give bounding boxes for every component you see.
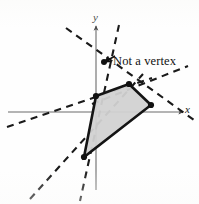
y-axis-label: y <box>93 12 98 23</box>
vertex-dot-top <box>126 81 132 87</box>
figure-canvas <box>0 0 199 204</box>
vertex-dot-right <box>148 102 154 108</box>
vertex-dot-bottom <box>81 154 87 160</box>
x-axis-label: x <box>185 104 190 115</box>
geometry-figure: y x Not a vertex <box>0 0 199 204</box>
not-a-vertex-label: Not a vertex <box>113 54 176 69</box>
vertex-dot-left <box>93 93 99 99</box>
